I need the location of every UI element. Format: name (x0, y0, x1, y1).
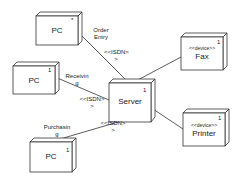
pc-purchasing-label: PC (30, 152, 72, 161)
fax-multiplicity: 1 (217, 39, 220, 45)
pc-order-entry-multiplicity: * (71, 17, 73, 23)
purchasing-role-label: Purchasin g (43, 124, 71, 138)
server-label: Server (109, 97, 151, 106)
receiving-isdn-label: <<ISDN> > (79, 96, 105, 110)
printer-stereotype: <<device>> (183, 122, 225, 128)
printer-multiplicity: 1 (218, 115, 221, 121)
receiving-role-label: Receivin g (64, 73, 90, 87)
pc-purchasing-multiplicity: 1 (66, 147, 69, 153)
order-entry-role-label: Order Entry (89, 27, 113, 41)
server-multiplicity: 1 (143, 87, 146, 93)
pc-receiving-multiplicity: 1 (48, 67, 51, 73)
order-entry-isdn-label: <<ISDN> > (104, 49, 128, 63)
connection-fax (134, 57, 181, 82)
pc-receiving-label: PC (13, 76, 55, 85)
fax-stereotype: <<device>> (181, 45, 223, 51)
pc-order-entry-label: PC (36, 26, 78, 35)
printer-label: Printer (183, 129, 225, 138)
purchasing-isdn-label: <<ISDN> > (100, 120, 126, 134)
fax-label: Fax (181, 52, 223, 61)
